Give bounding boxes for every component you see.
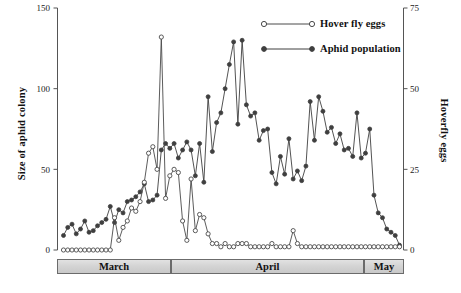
left-tick-label-100: 100 xyxy=(24,84,50,94)
month-label-april: April xyxy=(171,259,364,274)
right-tick-label-25: 25 xyxy=(410,165,436,175)
series-hover-fly-eggs xyxy=(61,35,401,252)
right-tick-label-50: 50 xyxy=(410,84,436,94)
left-tick-label-150: 150 xyxy=(24,3,50,13)
month-label-march: March xyxy=(57,259,171,274)
legend-label-aphid-population: Aphid population xyxy=(320,43,401,54)
right-axis-ticks xyxy=(404,8,408,250)
chart-figure: Size of aphid colony Hoverfly eggs 150 1… xyxy=(0,0,461,293)
left-tick-label-50: 50 xyxy=(24,165,50,175)
right-tick-label-0: 0 xyxy=(410,245,436,255)
left-tick-label-0: 0 xyxy=(24,245,50,255)
series-aphid-population xyxy=(62,38,402,247)
month-label-may: May xyxy=(364,259,404,274)
y-axis-right-title: Hoverfly eggs xyxy=(439,71,450,191)
left-axis-ticks xyxy=(54,8,58,250)
legend-label-hover-fly-eggs: Hover fly eggs xyxy=(320,18,385,29)
right-tick-label-75: 75 xyxy=(410,3,436,13)
